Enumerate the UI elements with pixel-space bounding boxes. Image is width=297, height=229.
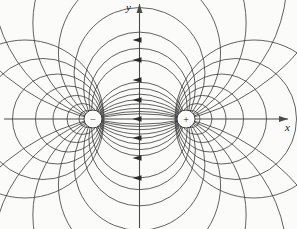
field-direction-arrows xyxy=(133,37,142,181)
direction-arrowhead xyxy=(133,175,142,181)
dipole-field-figure: − + y x xyxy=(0,0,297,229)
field-line xyxy=(0,0,287,127)
direction-arrowhead xyxy=(133,57,142,63)
field-lines-group xyxy=(0,0,297,229)
y-axis-label: y xyxy=(126,2,131,13)
direction-arrowhead xyxy=(133,37,142,43)
direction-arrowhead xyxy=(133,116,142,122)
field-line xyxy=(0,0,297,124)
direction-arrowhead xyxy=(133,135,142,141)
dipole-field-svg: − + xyxy=(0,0,297,229)
negative-charge-symbol: − xyxy=(90,114,96,125)
positive-charge-symbol: + xyxy=(183,114,189,125)
x-axis-label: x xyxy=(285,122,290,133)
direction-arrowhead xyxy=(133,97,142,103)
y-axis-arrowhead xyxy=(137,4,143,13)
field-line xyxy=(0,114,297,229)
